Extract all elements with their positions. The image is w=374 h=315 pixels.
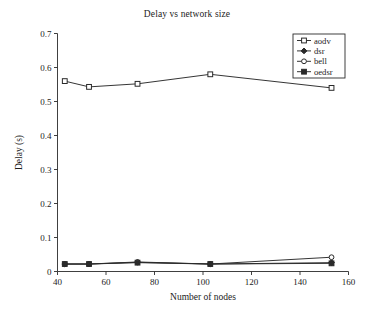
x-tick-label: 60 — [102, 277, 112, 287]
x-tick-label: 100 — [196, 277, 210, 287]
data-point-marker — [62, 79, 67, 84]
data-point-marker — [135, 81, 140, 86]
y-tick-label: 0 — [47, 267, 52, 277]
data-point-marker — [135, 260, 140, 265]
chart-legend: aodvdsrbelloedsr — [293, 34, 345, 78]
x-tick-label: 80 — [150, 277, 160, 287]
series-oedsr — [62, 260, 334, 266]
x-tick-label: 40 — [53, 277, 63, 287]
data-point-marker — [302, 38, 307, 43]
data-point-marker — [302, 59, 307, 64]
legend-label-oedsr: oedsr — [314, 67, 333, 77]
y-tick-label: 0.1 — [40, 233, 51, 243]
y-tick-label: 0.6 — [40, 63, 52, 73]
y-tick-label: 0.2 — [40, 199, 51, 209]
series-bell — [62, 255, 334, 267]
data-point-marker — [302, 69, 307, 74]
y-tick-label: 0.3 — [40, 165, 52, 175]
x-tick-label: 140 — [293, 277, 307, 287]
chart-figure: Delay vs network size 00.10.20.30.40.50.… — [0, 0, 374, 315]
data-point-marker — [87, 84, 92, 89]
y-tick-label: 0.5 — [40, 97, 52, 107]
data-point-marker — [329, 261, 334, 266]
data-point-marker — [87, 262, 92, 267]
y-axis-label: Delay (s) — [14, 135, 25, 170]
y-tick-label: 0.4 — [40, 131, 52, 141]
legend-label-bell: bell — [314, 56, 327, 66]
series-line-aodv — [65, 74, 332, 88]
legend-label-dsr: dsr — [314, 46, 325, 56]
data-point-marker — [329, 255, 334, 260]
x-axis-label: Number of nodes — [170, 292, 236, 302]
chart-plot-area: 00.10.20.30.40.50.60.7406080100120140160… — [0, 0, 374, 315]
data-point-marker — [208, 262, 213, 267]
x-tick-label: 120 — [245, 277, 259, 287]
data-point-marker — [62, 262, 67, 267]
x-tick-label: 160 — [342, 277, 356, 287]
y-tick-label: 0.7 — [40, 29, 52, 39]
data-point-marker — [208, 72, 213, 77]
data-point-marker — [329, 86, 334, 91]
legend-label-aodv: aodv — [314, 36, 331, 46]
